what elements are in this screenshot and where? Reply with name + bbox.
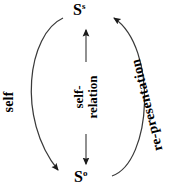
label-self: self [2,91,16,112]
node-bottom-superscript: o [83,168,88,178]
node-subject-s: Ss [73,2,85,18]
self-relation-diagram: Ss So self re-presentation self- relatio… [0,0,171,195]
label-self-relation: self- relation [65,67,107,127]
node-bottom-base: S [74,168,83,185]
label-self-relation-line1: self- [72,85,86,108]
node-top-superscript: s [82,1,86,11]
left-arc-self [31,18,63,170]
label-self-relation-line2: relation [86,75,100,118]
node-subject-o: So [74,169,87,185]
node-top-base: S [73,1,82,18]
